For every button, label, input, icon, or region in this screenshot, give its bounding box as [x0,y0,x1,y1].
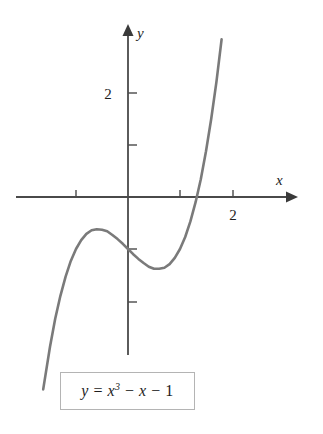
equation-caption-box: y = x3 − x − 1 [60,372,195,410]
equation-lhs: y [81,382,89,399]
y-tick-label-2: 2 [104,86,112,102]
minus-sign-1: − [125,382,135,399]
equation-caption-text: y = x3 − x − 1 [81,382,173,400]
equals-sign: = [93,382,103,399]
equation-base: x [107,382,115,399]
y-axis-label: y [135,25,144,41]
x-tick-label-2: 2 [229,207,237,223]
equation-term-2: x [139,382,147,399]
x-axis-arrowhead [286,192,298,203]
cubic-curve [43,39,221,389]
equation-term-3: 1 [165,382,174,399]
x-axis-label: x [275,172,283,188]
graph-figure: y x 2 2 y = x3 − x − 1 [0,0,323,434]
y-axis-arrowhead [123,24,134,36]
coordinate-plot: y x 2 2 [0,0,323,434]
minus-sign-2: − [151,382,161,399]
